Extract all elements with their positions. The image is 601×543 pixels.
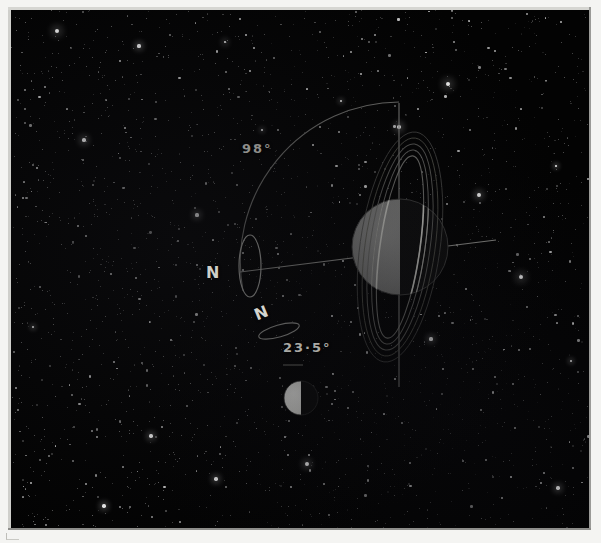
uranus-tilt-label: 98° — [242, 141, 273, 156]
star-field-background — [11, 9, 590, 530]
figure-canvas: 98° 23·5° N N — [0, 0, 601, 543]
plate-edge-right — [589, 7, 591, 530]
plate-edge-left — [8, 7, 11, 530]
diagram-vector-layer — [11, 9, 590, 530]
earth-tilt-label: 23·5° — [283, 340, 332, 355]
plate-edge-top — [8, 7, 591, 10]
uranus-north-pole-label: N — [206, 263, 220, 282]
uranus-equatorial-plane-ellipse — [239, 235, 261, 297]
margin-pencil-mark — [6, 533, 19, 540]
plate-edge-bottom — [8, 528, 591, 530]
